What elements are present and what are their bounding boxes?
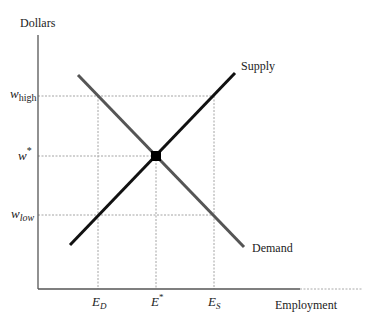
demand-label: Demand: [252, 241, 293, 255]
y-tick-w-low: wlow: [11, 206, 34, 223]
equilibrium-point: [151, 151, 161, 161]
x-tick-e-s: ES: [207, 294, 221, 311]
y-axis-title: Dollars: [20, 16, 56, 30]
y-tick-w-star: w*: [18, 145, 32, 163]
supply-label: Supply: [241, 59, 275, 73]
x-tick-e-star: E*: [150, 292, 164, 309]
labor-market-chart: Dollars Employment Supply Demand whigh w…: [0, 0, 372, 326]
y-tick-w-high: whigh: [10, 86, 36, 103]
x-tick-e-d: ED: [91, 294, 107, 311]
x-axis-title: Employment: [275, 298, 338, 312]
